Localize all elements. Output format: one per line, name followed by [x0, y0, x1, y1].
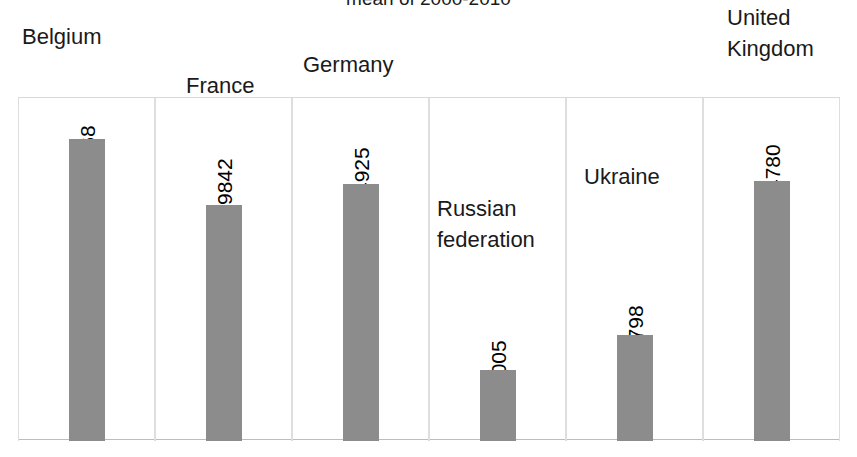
bar-russian-federation	[480, 370, 516, 441]
facet-panel-united-kingdom: 74780	[703, 98, 840, 441]
bar-france	[206, 205, 242, 441]
facet-panel-france: 69842	[155, 98, 292, 441]
bar-ukraine	[617, 335, 653, 441]
facet-panel-russian-federation: 21005	[429, 98, 566, 441]
bar-chart: mean of 2000-2010 Belgium France Germany…	[0, 0, 857, 457]
facet-panel-belgium: 88168	[18, 98, 155, 441]
bar-united-kingdom	[754, 181, 790, 441]
facet-label-belgium: Belgium	[22, 24, 101, 50]
facet-label-germany: Germany	[303, 52, 393, 78]
bar-belgium	[69, 139, 105, 441]
facet-panel-germany: 74925	[292, 98, 429, 441]
bar-germany	[343, 184, 379, 441]
facet-label-france: France	[186, 73, 254, 99]
facet-label-united-kingdom-line1: United	[727, 5, 791, 31]
facet-label-united-kingdom-line2: Kingdom	[727, 36, 814, 62]
plot-area: 88168 69842 74925 21005 30798 74780	[18, 97, 840, 440]
facet-panel-ukraine: 30798	[566, 98, 703, 441]
